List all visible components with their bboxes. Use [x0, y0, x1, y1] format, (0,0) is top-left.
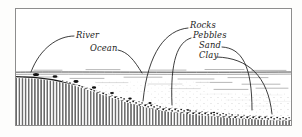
geology-cross-section-figure: River Ocean Rocks Pebbles Sand Clay	[0, 0, 302, 137]
label-ocean: Ocean	[90, 43, 117, 53]
diagram-canvas	[0, 0, 302, 137]
label-sand: Sand	[199, 40, 221, 50]
label-rocks: Rocks	[190, 20, 216, 30]
label-clay: Clay	[199, 50, 218, 60]
label-river: River	[76, 30, 99, 40]
label-pebbles: Pebbles	[193, 30, 227, 40]
